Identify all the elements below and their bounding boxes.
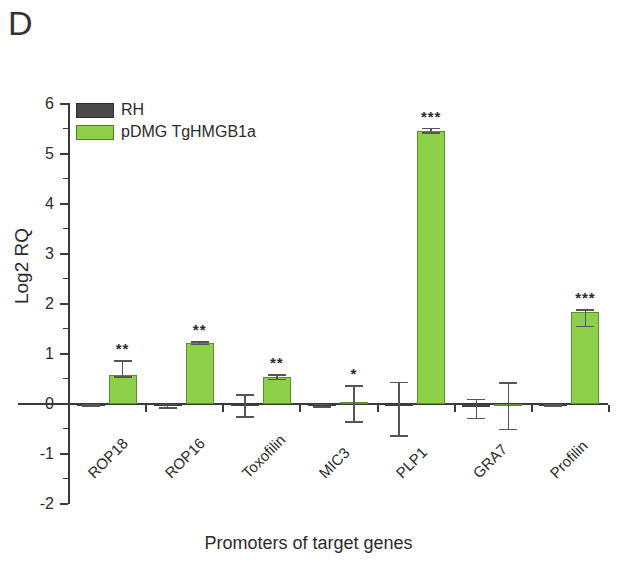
legend-swatch-dmg (76, 125, 114, 140)
y-tick-major (60, 353, 68, 355)
significance-marker: *** (561, 290, 609, 305)
y-tick-minor (63, 428, 68, 429)
y-tick-label: 0 (22, 396, 54, 412)
error-bar (82, 404, 100, 407)
y-tick-label: 1 (22, 346, 54, 362)
error-bar-cap-bottom (544, 405, 562, 407)
bar-pdmg-tghmgb1a-plp1 (417, 131, 445, 404)
x-tick (145, 405, 147, 412)
error-bar (422, 128, 440, 134)
y-tick-minor (63, 478, 68, 479)
error-bar (467, 399, 485, 420)
legend-item-rh: RH (76, 100, 256, 120)
error-bar-stem (244, 394, 246, 418)
error-bar (390, 382, 408, 437)
error-bar-cap-bottom (422, 132, 440, 134)
x-tick-label-rop18: ROP18 (85, 435, 130, 480)
y-tick-major (60, 453, 68, 455)
x-tick-label-toxofilin: Toxofilin (239, 432, 288, 481)
error-bar-stem (353, 385, 355, 423)
error-bar (159, 404, 177, 409)
error-bar-stem (585, 309, 587, 327)
error-bar-stem (476, 399, 478, 420)
error-bar (576, 309, 594, 327)
y-tick-minor (63, 278, 68, 279)
bar-pdmg-tghmgb1a-toxofilin (263, 377, 291, 404)
x-tick (299, 405, 301, 412)
significance-marker: *** (407, 109, 455, 124)
error-bar-cap-top (159, 404, 177, 406)
error-bar-cap-bottom (268, 379, 286, 381)
y-tick-major (60, 253, 68, 255)
x-tick (68, 405, 70, 412)
error-bar-cap-top (191, 341, 209, 343)
x-axis-title: Promoters of target genes (0, 533, 617, 554)
error-bar-stem (122, 360, 124, 378)
error-bar-cap-bottom (467, 418, 485, 420)
y-tick-label-text: -1 (22, 446, 54, 462)
error-bar-stem (508, 382, 510, 430)
x-tick (531, 405, 533, 412)
significance-marker: ** (176, 322, 224, 337)
y-tick-label-text: 5 (22, 146, 54, 162)
error-bar (544, 404, 562, 407)
error-bar-cap-top (236, 394, 254, 396)
error-bar-cap-bottom (390, 435, 408, 437)
y-tick-major (60, 103, 68, 105)
y-tick-major (60, 303, 68, 305)
error-bar-cap-bottom (313, 406, 331, 408)
error-bar-cap-top (499, 382, 517, 384)
x-tick-label-mic3: MIC3 (316, 445, 352, 481)
error-bar-cap-bottom (345, 421, 363, 423)
error-bar (114, 360, 132, 378)
y-tick-label-text: 0 (22, 396, 54, 412)
chart-plot-area: 6543210-1-2 ************* ROP18ROP16Toxo… (0, 0, 617, 565)
legend-label-rh: RH (121, 102, 144, 118)
error-bar-cap-top (576, 309, 594, 311)
y-tick-label-text: 1 (22, 346, 54, 362)
significance-marker: ** (253, 355, 301, 370)
error-bar-cap-bottom (191, 344, 209, 346)
error-bar-cap-top (345, 385, 363, 387)
error-bar (268, 374, 286, 380)
error-bar-cap-bottom (576, 326, 594, 328)
x-tick (454, 405, 456, 412)
error-bar (499, 382, 517, 430)
y-axis-line (68, 103, 70, 504)
y-tick-minor (63, 378, 68, 379)
y-tick-minor (63, 128, 68, 129)
y-tick-label: -2 (22, 496, 54, 512)
significance-marker: * (330, 366, 378, 381)
error-bar-cap-top (268, 374, 286, 376)
y-tick-label: 6 (22, 96, 54, 112)
x-tick-label-gra7: GRA7 (470, 441, 509, 480)
legend-item-dmg: pDMG TgHMGB1a (76, 122, 256, 142)
chart-legend: RHpDMG TgHMGB1a (76, 100, 256, 144)
error-bar-cap-bottom (82, 406, 100, 408)
y-tick-label: 5 (22, 146, 54, 162)
y-tick-label: -1 (22, 446, 54, 462)
error-bar (313, 404, 331, 408)
y-tick-major (60, 203, 68, 205)
y-tick-major (60, 503, 68, 505)
y-tick-minor (63, 228, 68, 229)
error-bar-cap-bottom (159, 407, 177, 409)
error-bar-cap-top (114, 360, 132, 362)
y-tick-minor (63, 328, 68, 329)
error-bar (345, 385, 363, 423)
y-tick-major (60, 403, 68, 405)
legend-label-dmg: pDMG TgHMGB1a (121, 124, 256, 140)
x-tick (222, 405, 224, 412)
error-bar-stem (398, 382, 400, 437)
x-tick-label-rop16: ROP16 (162, 435, 207, 480)
bar-pdmg-tghmgb1a-rop16 (186, 343, 214, 404)
x-tick (377, 405, 379, 412)
error-bar (236, 394, 254, 418)
error-bar-cap-bottom (236, 416, 254, 418)
error-bar-cap-top (467, 399, 485, 401)
error-bar-cap-bottom (114, 376, 132, 378)
bar-pdmg-tghmgb1a-rop18 (109, 375, 137, 404)
error-bar-cap-top (313, 404, 331, 406)
y-tick-label-text: -2 (22, 496, 54, 512)
significance-marker: ** (99, 341, 147, 356)
